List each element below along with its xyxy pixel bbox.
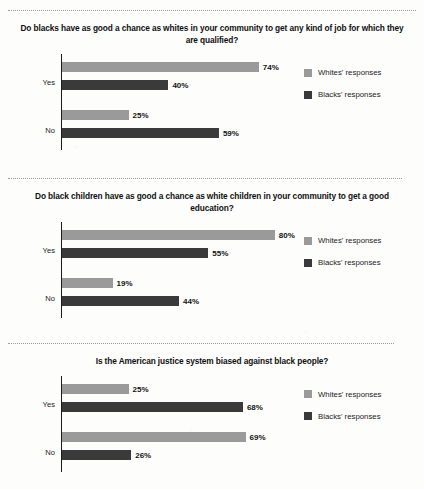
section-divider-top (8, 10, 416, 11)
legend-swatch-whites-icon (304, 237, 312, 245)
legend-item-whites: Whites' responses (304, 236, 416, 245)
bar-blacks (62, 248, 208, 258)
legend-item-blacks: Blacks' responses (304, 412, 416, 421)
chart-legend: Whites' responses Blacks' responses (304, 236, 416, 280)
bar-whites (62, 230, 275, 240)
plot-area: Yes 74% 40% No 25% 59% Whites' (0, 54, 424, 152)
survey-chart-page: Do blacks have as good a chance as white… (0, 0, 424, 489)
bar-row-no-blacks: 59% (62, 128, 219, 138)
category-label-yes: Yes (0, 400, 55, 409)
bar-blacks (62, 128, 219, 138)
bar-row-yes-whites: 25% (62, 384, 129, 394)
bar-row-yes-whites: 80% (62, 230, 275, 240)
bar-value-no-whites: 19% (117, 279, 133, 288)
bar-value-yes-whites: 74% (263, 63, 279, 72)
section-divider-middle (8, 178, 402, 179)
legend-item-blacks: Blacks' responses (304, 258, 416, 267)
bar-value-no-whites: 25% (133, 111, 149, 120)
bar-value-no-blacks: 44% (183, 297, 199, 306)
legend-label-whites: Whites' responses (318, 390, 381, 399)
legend-label-whites: Whites' responses (318, 68, 381, 77)
legend-label-blacks: Blacks' responses (318, 258, 381, 267)
category-label-no: No (0, 126, 55, 135)
legend-swatch-blacks-icon (304, 259, 312, 267)
legend-item-blacks: Blacks' responses (304, 90, 416, 99)
bar-blacks (62, 80, 168, 90)
bar-whites (62, 432, 246, 442)
legend-label-whites: Whites' responses (318, 236, 381, 245)
category-label-no: No (0, 448, 55, 457)
bar-value-yes-blacks: 68% (247, 402, 263, 411)
legend-label-blacks: Blacks' responses (318, 90, 381, 99)
bar-blacks (62, 450, 131, 460)
bar-row-yes-blacks: 55% (62, 248, 208, 258)
category-label-no: No (0, 294, 55, 303)
bar-whites (62, 110, 129, 120)
bar-row-no-whites: 69% (62, 432, 246, 442)
chart-legend: Whites' responses Blacks' responses (304, 68, 416, 112)
bar-whites (62, 62, 259, 72)
chart-title: Is the American justice system biased ag… (0, 347, 424, 368)
chart-title: Do blacks have as good a chance as white… (0, 14, 424, 46)
bar-value-no-whites: 69% (250, 432, 266, 441)
section-divider-bottom (8, 343, 394, 344)
bar-row-no-whites: 19% (62, 278, 113, 288)
bar-value-yes-whites: 25% (133, 384, 149, 393)
bar-row-no-whites: 25% (62, 110, 129, 120)
bar-whites (62, 384, 129, 394)
bar-whites (62, 278, 113, 288)
legend-swatch-whites-icon (304, 69, 312, 77)
bar-row-no-blacks: 44% (62, 296, 179, 306)
legend-item-whites: Whites' responses (304, 390, 416, 399)
bar-row-no-blacks: 26% (62, 450, 131, 460)
bar-row-yes-blacks: 40% (62, 80, 168, 90)
chart-panel-jobs: Do blacks have as good a chance as white… (0, 14, 424, 174)
category-label-yes: Yes (0, 246, 55, 255)
legend-label-blacks: Blacks' responses (318, 412, 381, 421)
bar-value-yes-whites: 80% (279, 231, 295, 240)
chart-panel-education: Do black children have as good a chance … (0, 182, 424, 340)
bar-value-yes-blacks: 55% (212, 249, 228, 258)
bar-blacks (62, 402, 243, 412)
legend-item-whites: Whites' responses (304, 68, 416, 77)
bar-value-no-blacks: 59% (223, 129, 239, 138)
bar-blacks (62, 296, 179, 306)
chart-legend: Whites' responses Blacks' responses (304, 390, 416, 434)
bar-row-yes-whites: 74% (62, 62, 259, 72)
legend-swatch-blacks-icon (304, 91, 312, 99)
legend-swatch-blacks-icon (304, 412, 312, 420)
chart-panel-justice: Is the American justice system biased ag… (0, 347, 424, 489)
category-label-yes: Yes (0, 78, 55, 87)
plot-area: Yes 25% 68% No 69% 26% Whites' (0, 376, 424, 474)
bar-value-yes-blacks: 40% (172, 81, 188, 90)
chart-title: Do black children have as good a chance … (0, 182, 424, 214)
bar-value-no-blacks: 26% (135, 450, 151, 459)
legend-swatch-whites-icon (304, 390, 312, 398)
bar-row-yes-blacks: 68% (62, 402, 243, 412)
plot-area: Yes 80% 55% No 19% 44% Whites' (0, 222, 424, 320)
